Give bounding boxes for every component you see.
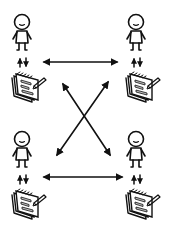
arrow-diagonal-tr-bl [57,82,108,155]
person-icon [127,15,145,51]
node-bottom-left [12,132,46,220]
node-top-left [12,15,46,103]
up-down-arrows-icon [20,58,26,67]
person-icon [13,132,31,168]
up-down-arrows-icon [134,175,140,184]
notepad-icon [126,189,160,219]
up-down-arrows-icon [20,175,26,184]
node-bottom-right [126,132,160,220]
person-icon [13,15,31,51]
notepad-icon [126,72,160,102]
up-down-arrows-icon [134,58,140,67]
node-top-right [126,15,160,103]
notepad-icon [12,72,46,102]
notepad-icon [12,189,46,219]
arrow-diagonal-tl-br [63,84,110,155]
person-icon [127,132,145,168]
collaboration-diagram [0,0,169,226]
